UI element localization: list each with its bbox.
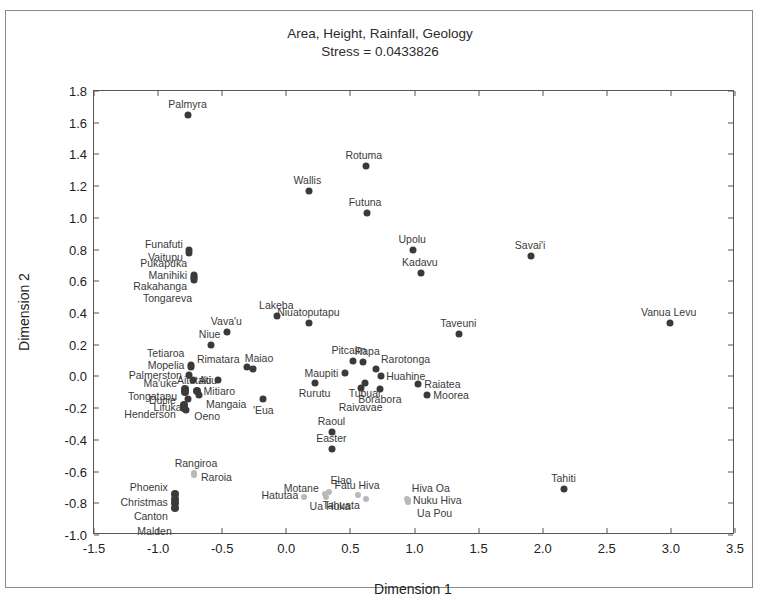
y-tick-label: 0.4 [69, 306, 94, 321]
y-tick-mark [94, 186, 99, 187]
x-tick-mark-top [670, 91, 671, 96]
data-point[interactable] [528, 252, 535, 259]
y-tick-mark-right [728, 122, 733, 123]
data-point[interactable] [360, 359, 367, 366]
data-point[interactable] [215, 376, 222, 383]
data-point[interactable] [301, 494, 307, 500]
x-tick-label: 0.5 [341, 533, 359, 556]
x-tick-mark-top [606, 91, 607, 96]
data-point-label: Vanua Levu [641, 306, 696, 317]
data-point[interactable] [249, 365, 256, 372]
data-point-label: Rurutu [299, 387, 331, 398]
data-point[interactable] [171, 504, 179, 512]
data-point-label: Maiao [245, 352, 274, 363]
page-title: Area, Height, Rainfall, Geology [6, 25, 754, 43]
data-point-label: Ua Pou [417, 507, 452, 518]
data-point[interactable] [188, 363, 195, 370]
data-point-label: Futuna [349, 197, 382, 208]
y-tick-mark [94, 91, 99, 92]
x-tick-label: 1.5 [470, 533, 488, 556]
x-tick-mark-top [414, 91, 415, 96]
data-point[interactable] [306, 187, 313, 194]
data-point[interactable] [357, 384, 364, 391]
data-point[interactable] [306, 319, 313, 326]
y-tick-label: -0.6 [65, 464, 94, 479]
data-point-label: Kadavu [402, 257, 438, 268]
data-point[interactable] [415, 381, 422, 388]
data-point[interactable] [456, 330, 463, 337]
data-point-label: Taveuni [440, 317, 476, 328]
y-tick-mark-right [728, 217, 733, 218]
y-tick-label: 1.4 [69, 147, 94, 162]
x-tick-mark-top [222, 91, 223, 96]
data-point-label: Rapa [355, 346, 380, 357]
data-point[interactable] [311, 379, 318, 386]
y-tick-mark [94, 471, 99, 472]
data-point[interactable] [191, 472, 197, 478]
data-point-label: Funafuti [145, 238, 183, 249]
x-axis-label: Dimension 1 [374, 581, 452, 597]
data-point[interactable] [378, 373, 385, 380]
x-tick-label: 1.0 [405, 533, 423, 556]
data-point-label: Borabora [358, 394, 401, 405]
data-point[interactable] [342, 370, 349, 377]
y-tick-mark [94, 154, 99, 155]
data-point[interactable] [196, 392, 203, 399]
data-point[interactable] [561, 486, 568, 493]
y-tick-mark-right [728, 503, 733, 504]
x-tick-mark-top [158, 91, 159, 96]
data-point[interactable] [224, 329, 231, 336]
data-point[interactable] [190, 276, 197, 283]
data-point[interactable] [207, 341, 214, 348]
data-point-label: Hatutaa [261, 489, 298, 500]
figure-frame: Area, Height, Rainfall, Geology Stress =… [5, 10, 753, 588]
data-point-label: Ducie [149, 394, 176, 405]
data-point[interactable] [363, 496, 369, 502]
data-point[interactable] [260, 395, 267, 402]
data-point[interactable] [424, 392, 431, 399]
y-tick-mark-right [728, 249, 733, 250]
y-tick-mark-right [728, 91, 733, 92]
data-point-label: Tahiti [551, 473, 576, 484]
y-tick-label: 1.0 [69, 210, 94, 225]
y-tick-mark-right [728, 439, 733, 440]
y-tick-mark [94, 439, 99, 440]
y-tick-mark-right [728, 376, 733, 377]
x-tick-mark [735, 528, 736, 533]
data-point[interactable] [666, 319, 673, 326]
data-point-label: Easter [316, 433, 346, 444]
data-point[interactable] [183, 406, 190, 413]
data-point-label: Tongareva [143, 292, 192, 303]
y-tick-label: -0.4 [65, 432, 94, 447]
data-point[interactable] [417, 270, 424, 277]
data-point[interactable] [184, 111, 191, 118]
data-point[interactable] [329, 446, 336, 453]
data-point[interactable] [410, 246, 417, 253]
data-point-label: Niuatoputapu [277, 306, 339, 317]
y-tick-mark [94, 503, 99, 504]
data-point-label: Hiva Oa [412, 482, 450, 493]
data-point-label: Henderson [124, 409, 175, 420]
data-point[interactable] [349, 357, 356, 364]
data-point[interactable] [362, 162, 369, 169]
data-point[interactable] [364, 210, 371, 217]
y-tick-label: 1.2 [69, 179, 94, 194]
data-point-label: Pukapuka [140, 257, 187, 268]
data-point-label: Tetiaroa [147, 348, 184, 359]
y-tick-mark-right [728, 186, 733, 187]
data-point-label: Oeno [194, 410, 220, 421]
data-point[interactable] [185, 249, 192, 256]
data-point[interactable] [373, 365, 380, 372]
data-point-label: Palmyra [168, 98, 207, 109]
data-point[interactable] [405, 499, 411, 505]
y-tick-mark [94, 281, 99, 282]
y-tick-mark [94, 408, 99, 409]
data-point[interactable] [376, 386, 383, 393]
x-tick-label: 2.0 [534, 533, 552, 556]
data-point-label: Christmas [121, 496, 168, 507]
x-tick-mark [350, 528, 351, 533]
data-point-label: Manihiki [148, 269, 187, 280]
y-tick-mark-right [728, 154, 733, 155]
x-tick-mark [414, 528, 415, 533]
x-tick-mark [222, 528, 223, 533]
